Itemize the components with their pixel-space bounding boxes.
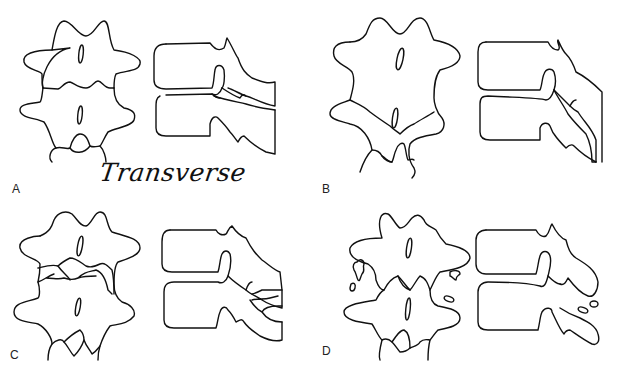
- panel-label-a: A: [12, 182, 20, 196]
- panel-label-c: C: [10, 348, 19, 362]
- panel-label-b: B: [322, 182, 330, 196]
- figure-caption: Transverse: [98, 158, 248, 187]
- fragment-5: [590, 301, 598, 307]
- vertebra-diagram: A B C: [0, 0, 619, 373]
- panel-c-lateral-view: [162, 226, 282, 341]
- panel-b-lateral-view: [478, 40, 602, 162]
- panel-d-lateral-view: [476, 224, 599, 344]
- fragment-2: [350, 283, 355, 291]
- fragment-4: [443, 295, 454, 303]
- panel-a-posterior-view: [20, 21, 140, 162]
- panel-label-d: D: [322, 344, 331, 358]
- panel-c-posterior-view: [14, 212, 140, 360]
- panel-b-posterior-view: [330, 18, 460, 178]
- panel-a-lateral-view: [154, 38, 275, 154]
- panel-d-posterior-view: [344, 214, 470, 360]
- fragment-6: [577, 306, 588, 314]
- fragment-3: [450, 271, 460, 280]
